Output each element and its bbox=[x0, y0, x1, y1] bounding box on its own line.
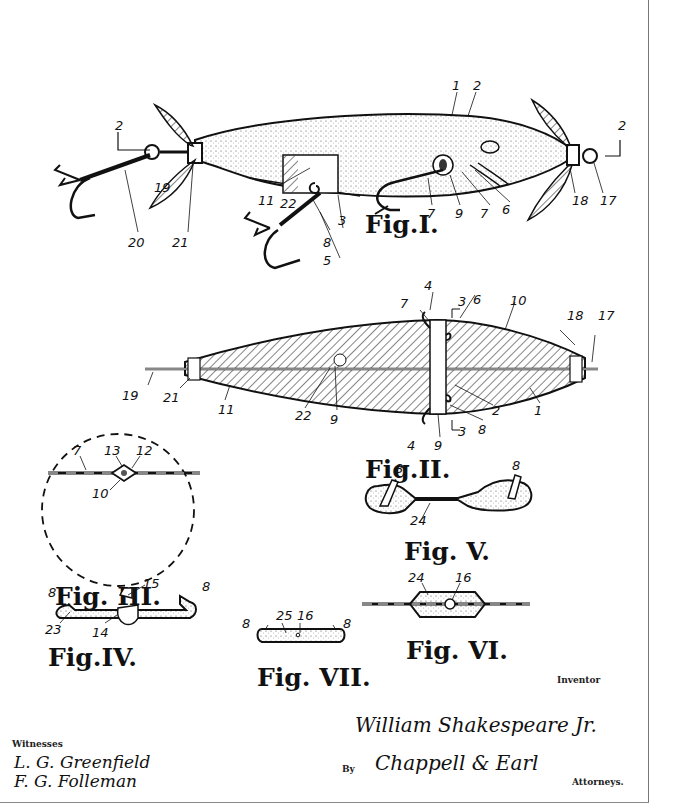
fig5-label-8-right: 8 bbox=[512, 458, 520, 473]
patent-sheet: 2 2 1 2 19 20 21 11 22 3 8 5 7 9 7 6 18 … bbox=[0, 0, 673, 810]
fig1-label-11: 11 bbox=[258, 193, 275, 208]
fig2-label-11: 11 bbox=[218, 402, 235, 417]
fig2-label-21: 21 bbox=[163, 390, 180, 405]
fig4-label-8-left: 8 bbox=[48, 585, 56, 600]
inventor-label: Inventor bbox=[557, 675, 600, 685]
fig5-label-24: 24 bbox=[410, 513, 427, 528]
fig2-label-2: 2 bbox=[492, 403, 500, 418]
witness-1-signature: L. G. Greenfield bbox=[13, 752, 150, 772]
fig1-label-2: 2 bbox=[473, 78, 481, 93]
fig2-label-19: 19 bbox=[122, 388, 139, 403]
fig2-label-9b: 9 bbox=[434, 438, 442, 453]
fig1-caption: Fig.I. bbox=[365, 210, 439, 239]
witnesses-label: Witnesses bbox=[11, 739, 63, 749]
figure-7-plate bbox=[258, 623, 345, 642]
figure-3-detail bbox=[42, 434, 200, 586]
fig7-label-16: 16 bbox=[297, 608, 314, 623]
fig3-label-10: 10 bbox=[92, 486, 109, 501]
fig1-label-3: 3 bbox=[338, 213, 346, 228]
fig1-label-9: 9 bbox=[455, 206, 463, 221]
fig1-label-1: 1 bbox=[452, 78, 460, 93]
fig6-caption: Fig. VI. bbox=[406, 636, 508, 665]
attorney-signature: Chappell & Earl bbox=[375, 751, 538, 775]
fig2-caption: Fig.II. bbox=[365, 455, 451, 484]
fig2-label-22: 22 bbox=[295, 408, 312, 423]
fig7-label-25: 25 bbox=[276, 608, 293, 623]
fig2-label-8: 8 bbox=[478, 422, 486, 437]
by-label: By bbox=[342, 764, 356, 774]
lure-body bbox=[195, 114, 572, 196]
fig3-label-7: 7 bbox=[73, 443, 82, 458]
fig7-caption: Fig. VII. bbox=[257, 663, 371, 692]
fig2-label-17: 17 bbox=[598, 308, 615, 323]
fig1-label-19: 19 bbox=[154, 180, 171, 195]
fig1-label-5: 5 bbox=[323, 253, 331, 268]
fig4-label-15: 15 bbox=[143, 576, 160, 591]
inventor-signature: William Shakespeare Jr. bbox=[355, 713, 597, 737]
fig4-caption: Fig.IV. bbox=[48, 643, 137, 672]
fig4-label-14: 14 bbox=[92, 625, 109, 640]
fig5-label-8-left: 8 bbox=[395, 461, 403, 476]
fig2-label-4-bottom: 4 bbox=[407, 438, 415, 453]
fig2-label-9a: 9 bbox=[330, 412, 338, 427]
fig2-label-6: 6 bbox=[473, 292, 481, 307]
fig6-label-24: 24 bbox=[408, 570, 425, 585]
fig3-label-12: 12 bbox=[136, 443, 153, 458]
fig3-label-13: 13 bbox=[104, 443, 121, 458]
fig2-label-3-bottom: 3 bbox=[458, 424, 466, 439]
figure-6-plate-top bbox=[362, 583, 530, 617]
fig2-label-1: 1 bbox=[534, 403, 542, 418]
fig2-label-18: 18 bbox=[567, 308, 584, 323]
fig1-label-22: 22 bbox=[280, 196, 297, 211]
fig7-label-8-left: 8 bbox=[242, 616, 250, 631]
fig1-label-20: 20 bbox=[128, 235, 145, 250]
witness-2-signature: F. G. Folleman bbox=[13, 771, 137, 791]
attorneys-label: Attorneys. bbox=[571, 777, 624, 787]
fig2-label-4-top: 4 bbox=[424, 278, 432, 293]
fig2-label-7: 7 bbox=[400, 296, 409, 311]
fig4-label-23: 23 bbox=[45, 622, 62, 637]
fig7-label-8-right: 8 bbox=[343, 616, 351, 631]
drawing-canvas: 2 2 1 2 19 20 21 11 22 3 8 5 7 9 7 6 18 … bbox=[0, 0, 673, 810]
fig1-label-6: 6 bbox=[502, 202, 510, 217]
fig1-label-8: 8 bbox=[323, 235, 331, 250]
fig1-label-17: 17 bbox=[600, 193, 617, 208]
fig2-label-10: 10 bbox=[510, 293, 527, 308]
fig6-label-16: 16 bbox=[455, 570, 472, 585]
fig1-label-7b: 7 bbox=[480, 206, 489, 221]
fig4-label-8-right: 8 bbox=[202, 579, 210, 594]
fig2-label-3-top: 3 bbox=[458, 294, 466, 309]
fig1-label-section-right: 2 bbox=[618, 118, 626, 133]
fig1-label-18: 18 bbox=[572, 193, 589, 208]
fig5-caption: Fig. V. bbox=[404, 537, 490, 566]
figure-2-lure-section bbox=[145, 292, 598, 437]
fig1-label-section-left: 2 bbox=[115, 118, 123, 133]
fig1-label-21: 21 bbox=[172, 235, 189, 250]
